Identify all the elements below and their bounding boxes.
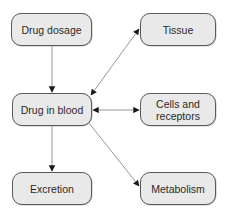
node-label: Drug dosage xyxy=(21,24,81,36)
node-label: Metabolism xyxy=(151,183,205,195)
edge-blood-tissue xyxy=(91,29,139,95)
node-drug-in-blood: Drug in blood xyxy=(12,93,92,126)
node-label: Drug in blood xyxy=(21,104,83,116)
node-drug-dosage: Drug dosage xyxy=(11,13,92,46)
node-tissue: Tissue xyxy=(140,13,216,46)
node-label: Cells and receptors xyxy=(156,98,200,122)
diagram-canvas: Drug dosage Tissue Drug in blood Cells a… xyxy=(0,0,229,215)
node-excretion: Excretion xyxy=(12,172,92,205)
node-label: Excretion xyxy=(30,183,74,195)
node-cells-and-receptors: Cells and receptors xyxy=(140,93,216,126)
node-metabolism: Metabolism xyxy=(140,172,216,205)
node-label: Tissue xyxy=(163,24,194,36)
edge-blood-to-metabolism xyxy=(89,123,139,186)
